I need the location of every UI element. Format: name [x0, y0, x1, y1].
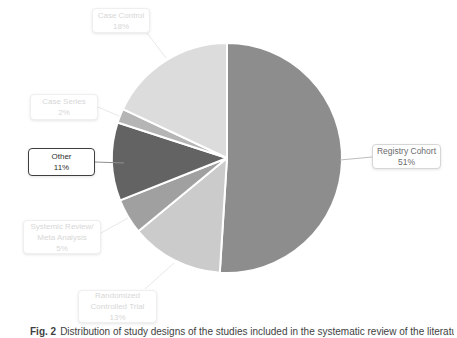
leader-line-case-control [147, 33, 166, 58]
pie-slice-registry-cohort [220, 43, 342, 273]
label-registry-pct: 51% [376, 157, 437, 168]
label-registry-name: Registry Cohort [376, 146, 437, 157]
leader-line-registry-cohort [340, 157, 372, 160]
label-systemic-review-pct: 5% [27, 243, 97, 254]
label-other: Other 11% [28, 148, 95, 176]
label-other-pct: 11% [32, 162, 91, 173]
label-registry-cohort: Registry Cohort 51% [372, 144, 441, 169]
label-case-series-name: Case Series [34, 96, 94, 107]
leader-line-case-series [98, 107, 119, 116]
figure-caption-prefix: Fig. 2 [30, 326, 56, 337]
figure-caption-text: Distribution of study designs of the stu… [60, 326, 454, 337]
label-rct-pct: 13% [82, 312, 153, 323]
label-systemic-review-line1: Systemic Review/ [27, 221, 97, 232]
label-other-name: Other [32, 151, 91, 162]
label-case-control: Case Control 18% [92, 8, 150, 33]
label-rct-line1: Randomized [82, 290, 153, 301]
label-randomized-controlled-trial: Randomized Controlled Trial 13% [78, 290, 157, 323]
label-systemic-review: Systemic Review/ Meta Analysis 5% [23, 220, 101, 254]
label-case-series: Case Series 2% [30, 94, 98, 120]
label-systemic-review-line2: Meta Analysis [27, 232, 97, 243]
leader-line-systemic-review [101, 218, 128, 233]
figure-caption: Fig. 2Distribution of study designs of t… [30, 326, 454, 338]
label-case-control-pct: 18% [96, 21, 146, 32]
label-rct-line2: Controlled Trial [82, 301, 153, 312]
leader-line-randomized-controlled-trial [145, 263, 174, 289]
label-case-control-name: Case Control [96, 10, 146, 21]
pie-slices [112, 43, 342, 273]
label-case-series-pct: 2% [34, 107, 94, 118]
